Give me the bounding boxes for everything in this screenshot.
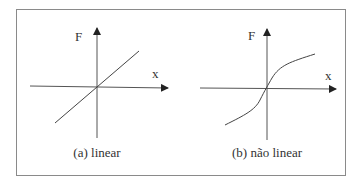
panel-b-x-axis (200, 88, 336, 89)
diagram-canvas (0, 0, 362, 185)
panel-a-x-axis (30, 86, 168, 88)
panel-a-graph (30, 28, 168, 138)
panel-a-caption: (a) linear (73, 146, 120, 159)
panel-b-x-label: x (325, 69, 332, 82)
panel-b-nonlinear-curve (225, 54, 315, 125)
panel-b-y-label: F (248, 29, 255, 42)
panel-b-caption: (b) não linear (232, 146, 302, 159)
panel-b-graph (200, 29, 336, 140)
panel-a-y-label: F (75, 30, 82, 43)
panel-a-x-label: x (152, 67, 159, 80)
